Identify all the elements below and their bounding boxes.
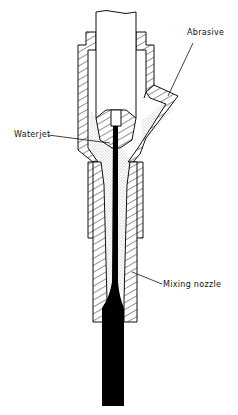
- abrasive-leader: [168, 43, 193, 96]
- mixing-nozzle-label: Mixing nozzle: [163, 280, 221, 289]
- housing-right-wall: [136, 32, 154, 92]
- water-supply-tube: [96, 11, 136, 119]
- waterjet-label: Waterjet: [14, 130, 50, 139]
- abrasive-label: Abrasive: [187, 28, 224, 37]
- cutting-head-diagram: [0, 0, 238, 415]
